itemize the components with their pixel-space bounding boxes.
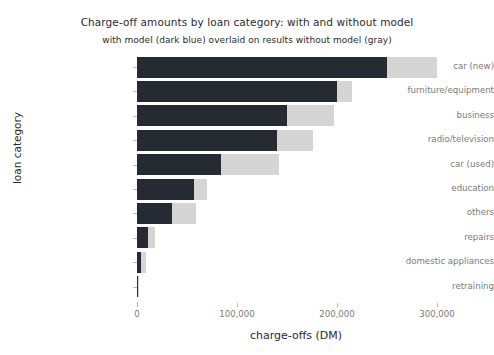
y-tick-mark [133,91,137,92]
x-tick-mark [237,303,238,307]
bar-with-model [137,227,148,248]
x-tick-mark [337,303,338,307]
y-tick-label: car (used) [366,159,494,169]
y-tick-mark [133,213,137,214]
y-tick-label: repairs [366,232,494,242]
bar-with-model [137,154,221,175]
y-tick-label: car (new) [366,61,494,71]
y-tick-mark [133,262,137,263]
y-tick-label: retraining [366,281,494,291]
y-tick-label: business [366,110,494,120]
y-tick-mark [133,67,137,68]
x-tick-label: 300,000 [419,309,455,319]
chart-figure: Charge-off amounts by loan category: wit… [0,0,494,355]
y-tick-label: education [366,183,494,193]
chart-subtitle: with model (dark blue) overlaid on resul… [0,35,494,45]
bar-with-model [137,105,287,126]
bar-with-model [137,276,138,297]
bar-with-model [137,130,277,151]
chart-title: Charge-off amounts by loan category: wit… [0,16,494,28]
bar-with-model [137,179,194,200]
x-tick-mark [437,303,438,307]
y-tick-label: radio/television [366,134,494,144]
y-tick-mark [133,189,137,190]
y-tick-mark [133,238,137,239]
y-tick-label: others [366,207,494,217]
y-axis-label: loan category [11,88,23,208]
y-tick-mark [133,140,137,141]
x-tick-label: 200,000 [319,309,355,319]
x-tick-label: 0 [134,309,139,319]
y-tick-mark [133,165,137,166]
y-tick-label: domestic appliances [366,256,494,266]
x-tick-label: 100,000 [219,309,255,319]
y-tick-mark [133,287,137,288]
bar-with-model [137,252,141,273]
y-tick-label: furniture/equipment [366,85,494,95]
y-tick-mark [133,116,137,117]
x-tick-mark [137,303,138,307]
x-axis-label: charge-offs (DM) [137,329,455,342]
bar-with-model [137,81,337,102]
bar-with-model [137,57,387,78]
bar-with-model [137,203,172,224]
